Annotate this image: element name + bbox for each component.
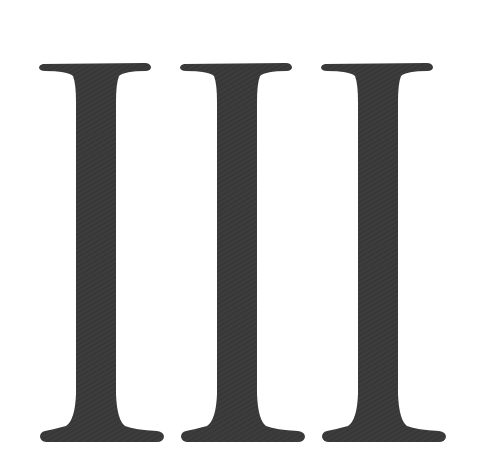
roman-numeral-three [0,0,501,476]
numeral-glyph-2 [180,63,305,442]
numeral-glyph-3 [321,63,446,442]
numeral-glyph-1 [39,63,164,442]
